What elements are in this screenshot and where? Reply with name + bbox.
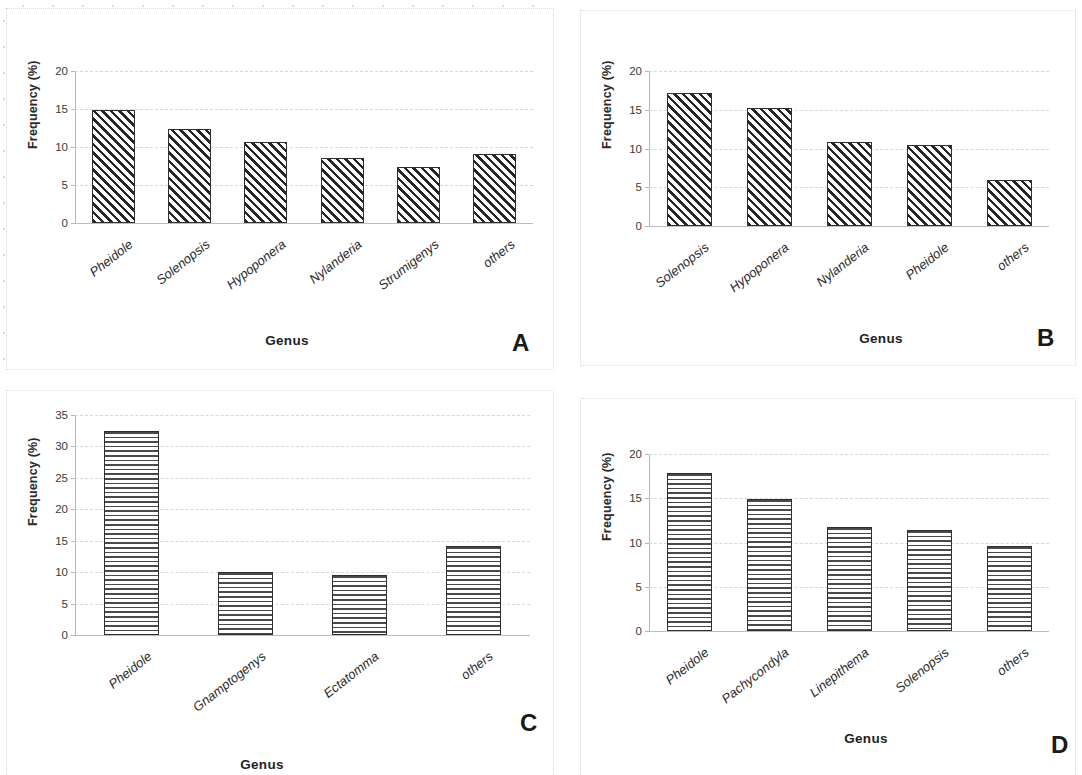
- y-tick-label: 30: [55, 440, 68, 452]
- x-tick-label: Strumigenys: [274, 237, 441, 372]
- y-tick-label: 5: [636, 181, 642, 193]
- y-tick-mark: [645, 454, 649, 455]
- x-tick-label: Solenopsis: [45, 237, 212, 372]
- bar: [397, 167, 440, 223]
- x-tick-label: Linepithema: [705, 645, 872, 775]
- y-tick-label: 15: [55, 535, 68, 547]
- y-tick-mark: [645, 631, 649, 632]
- y-tick-mark: [71, 509, 75, 510]
- bar: [218, 572, 273, 635]
- y-tick-label: 10: [629, 143, 642, 155]
- y-tick-mark: [71, 635, 75, 636]
- y-tick-mark: [645, 71, 649, 72]
- gridline: [649, 226, 1049, 227]
- x-tick-label: Pachycondyla: [625, 645, 792, 775]
- gridline: [75, 185, 533, 186]
- bar: [907, 530, 952, 631]
- plot-area-a: 05101520: [75, 71, 533, 223]
- bar: [747, 499, 792, 631]
- y-tick-label: 0: [62, 629, 68, 641]
- y-tick-label: 15: [55, 103, 68, 115]
- x-tick-label: Solenopsis: [545, 240, 712, 375]
- bar: [168, 129, 211, 223]
- bar: [446, 546, 501, 635]
- panel-letter-a: A: [512, 329, 529, 357]
- panel-a: Frequency (%) 05101520 Genus PheidoleSol…: [6, 8, 554, 370]
- bar: [104, 431, 159, 635]
- y-tick-label: 0: [62, 217, 68, 229]
- x-tick-label: Pheidole: [545, 645, 712, 775]
- y-tick-mark: [71, 604, 75, 605]
- y-tick-mark: [71, 572, 75, 573]
- y-tick-label: 10: [55, 566, 68, 578]
- x-axis-title-c: Genus: [172, 757, 352, 772]
- y-tick-mark: [71, 446, 75, 447]
- panel-c: Frequency (%) 05101520253035 Genus Pheid…: [6, 390, 554, 775]
- y-tick-mark: [645, 110, 649, 111]
- x-tick-label: Pheidole: [785, 240, 952, 375]
- y-tick-label: 5: [62, 179, 68, 191]
- bar: [92, 110, 135, 223]
- y-tick-label: 15: [629, 104, 642, 116]
- y-tick-label: 20: [629, 65, 642, 77]
- plot-area-d: 05101520: [649, 454, 1049, 631]
- gridline: [649, 71, 1049, 72]
- y-tick-mark: [71, 109, 75, 110]
- y-tick-label: 5: [62, 598, 68, 610]
- y-tick-label: 0: [636, 625, 642, 637]
- panel-b: Frequency (%) 05101520 Genus SolenopsisH…: [580, 10, 1076, 366]
- x-tick-label: Nylanderia: [198, 237, 365, 372]
- bar: [747, 108, 792, 226]
- bar: [667, 473, 712, 631]
- y-tick-mark: [71, 415, 75, 416]
- panel-d: Frequency (%) 05101520 Genus PheidolePac…: [580, 398, 1076, 775]
- y-tick-label: 5: [636, 581, 642, 593]
- plot-area-b: 05101520: [649, 71, 1049, 226]
- bar: [473, 154, 516, 223]
- gridline: [75, 147, 533, 148]
- bar: [244, 142, 287, 223]
- y-tick-label: 20: [629, 448, 642, 460]
- gridline: [75, 109, 533, 110]
- bar: [827, 142, 872, 226]
- y-tick-label: 0: [636, 220, 642, 232]
- panel-letter-c: C: [520, 709, 537, 737]
- y-tick-label: 35: [55, 409, 68, 421]
- y-tick-label: 25: [55, 472, 68, 484]
- gridline: [75, 71, 533, 72]
- x-tick-label: Hypoponera: [625, 240, 792, 375]
- bar: [332, 575, 387, 635]
- x-tick-label: Nylanderia: [705, 240, 872, 375]
- figure-four-panel-bar-charts: Frequency (%) 05101520 Genus PheidoleSol…: [0, 0, 1082, 775]
- x-tick-label: Hypoponera: [122, 237, 289, 372]
- y-tick-mark: [71, 223, 75, 224]
- y-tick-label: 20: [55, 65, 68, 77]
- x-tick-label: others: [865, 240, 1032, 375]
- y-tick-mark: [645, 543, 649, 544]
- bar: [907, 145, 952, 226]
- y-tick-mark: [645, 587, 649, 588]
- panel-letter-d: D: [1051, 731, 1068, 759]
- gridline: [75, 415, 530, 416]
- gridline: [75, 635, 530, 636]
- y-tick-mark: [645, 149, 649, 150]
- gridline: [649, 454, 1049, 455]
- x-tick-label: others: [351, 237, 518, 372]
- plot-area-c: 05101520253035: [75, 415, 530, 635]
- bar: [987, 180, 1032, 226]
- y-tick-mark: [645, 226, 649, 227]
- bar: [827, 527, 872, 631]
- y-tick-label: 20: [55, 503, 68, 515]
- y-tick-mark: [71, 147, 75, 148]
- y-axis-line-c: [75, 415, 76, 635]
- y-tick-mark: [645, 498, 649, 499]
- x-tick-label: Solenopsis: [785, 645, 952, 775]
- panel-letter-b: B: [1037, 324, 1054, 352]
- bar: [667, 93, 712, 226]
- y-tick-mark: [71, 71, 75, 72]
- y-tick-label: 15: [629, 492, 642, 504]
- bar: [321, 158, 364, 223]
- gridline: [75, 223, 533, 224]
- bar: [987, 546, 1032, 631]
- gridline: [649, 631, 1049, 632]
